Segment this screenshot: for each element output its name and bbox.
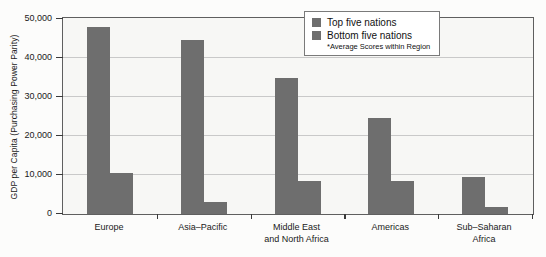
x-axis-tick [157,214,158,219]
y-axis-tick-label: 20,000 [24,130,52,140]
bars-layer [63,18,533,214]
x-axis-label: Sub–Saharan Africa [429,222,539,245]
plot-area: 010,00020,00030,00040,00050,000 [62,17,534,215]
x-axis-tick [532,214,533,219]
x-axis-tick [344,214,345,219]
legend-swatch-icon [312,18,321,27]
y-axis-title: GDP per Capita (Purchasing Power Parity) [9,7,19,227]
y-axis-tick [56,96,63,97]
bar [462,177,485,214]
bar-group [181,40,227,214]
legend-note: *Average Scores within Region [327,42,430,51]
y-axis-tick-label: 30,000 [24,91,52,101]
bar [368,118,391,214]
bar-group [368,118,414,214]
bar [110,173,133,214]
x-axis-tick [251,214,252,219]
bar-group [275,78,321,215]
y-axis-tick-label: 50,000 [24,13,52,23]
legend-item-top-five: Top five nations [312,17,430,28]
bar [275,78,298,215]
bar [298,181,321,214]
bar [485,207,508,214]
chart-legend: Top five nations Bottom five nations *Av… [304,11,440,56]
bar [391,181,414,214]
y-axis-tick [56,174,63,175]
y-axis-tick [56,57,63,58]
chart-figure: GDP per Capita (Purchasing Power Parity)… [0,0,546,257]
y-axis-tick-label: 0 [47,208,52,218]
legend-label: Bottom five nations [327,30,412,41]
y-axis-tick [56,135,63,136]
x-axis-tick [438,214,439,219]
legend-item-bottom-five: Bottom five nations [312,30,430,41]
y-axis-tick [56,18,63,19]
bar [204,202,227,214]
bar [87,27,110,214]
legend-swatch-icon [312,31,321,40]
bar-group [462,177,508,214]
y-axis-tick [56,213,63,214]
legend-label: Top five nations [327,17,397,28]
bar-group [87,27,133,214]
y-axis-tick-label: 10,000 [24,169,52,179]
y-axis-tick-label: 40,000 [24,52,52,62]
bar [181,40,204,214]
